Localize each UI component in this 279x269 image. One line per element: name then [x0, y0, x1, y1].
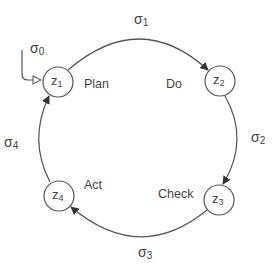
stage-label-plan: Plan: [84, 77, 109, 91]
node-z1: z1: [43, 67, 73, 97]
node-z4: z4: [44, 181, 74, 211]
nodes: z1 z2 z3 z4: [43, 66, 235, 215]
edge-label-sigma0: σ0: [30, 40, 45, 57]
edge-sigma3: [71, 207, 207, 237]
node-z2: z2: [205, 66, 235, 96]
edge-label-sigma4: σ4: [4, 134, 19, 151]
edge-sigma4: [39, 96, 50, 182]
node-z3: z3: [204, 185, 234, 215]
pdca-state-diagram: σ0 σ1 σ2 σ3 σ4 z1 z2 z3 z4 Plan Do Check…: [0, 0, 279, 269]
edge-sigma1: [68, 39, 208, 70]
stage-label-do: Do: [166, 77, 182, 91]
edge-label-sigma1: σ1: [134, 11, 149, 28]
edge-sigma2: [223, 96, 237, 184]
edge-label-sigma3: σ3: [138, 244, 153, 261]
stage-labels: Plan Do Check Act: [84, 77, 194, 201]
stage-label-check: Check: [158, 187, 194, 201]
edge-label-sigma2: σ2: [251, 129, 266, 146]
edge-labels: σ0 σ1 σ2 σ3 σ4: [4, 11, 266, 261]
stage-label-act: Act: [84, 178, 103, 192]
